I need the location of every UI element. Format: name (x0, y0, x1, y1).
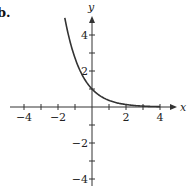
x-tick-label: 4 (157, 111, 164, 124)
x-tick-label: −2 (50, 111, 66, 124)
x-tick-label: −4 (16, 111, 32, 124)
x-axis-arrow-icon (170, 104, 177, 110)
y-tick-label: −2 (72, 137, 88, 150)
exponential-curve (65, 18, 160, 107)
x-tick-label: 2 (123, 111, 130, 124)
y-tick-label: 4 (81, 29, 88, 42)
y-tick-label: −4 (72, 173, 88, 186)
y-axis-arrow-icon (89, 16, 95, 23)
x-axis-label: x (180, 101, 187, 114)
y-axis-label: y (87, 1, 95, 14)
function-graph: b. −4−22442−2−4 x y (0, 0, 188, 188)
part-label: b. (0, 5, 11, 20)
